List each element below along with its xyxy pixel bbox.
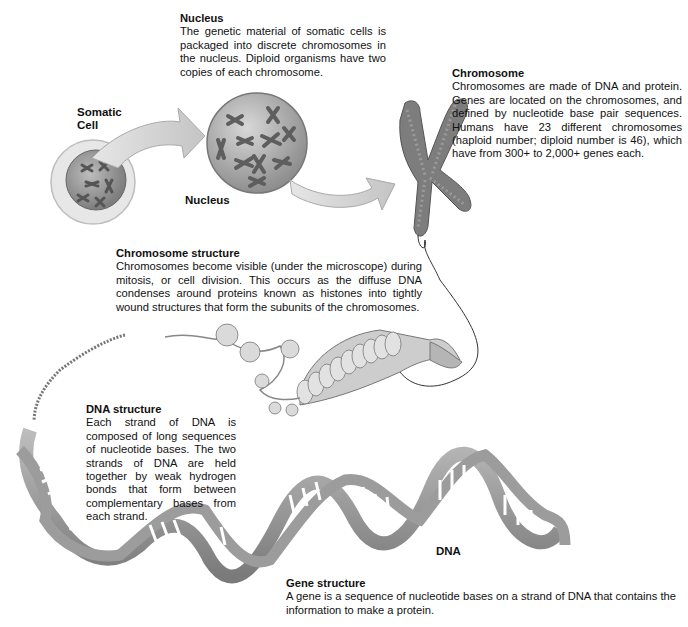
nucleus-graphic: [207, 93, 307, 193]
chromatin-fiber-graphic: [297, 330, 462, 405]
dna-structure-description: DNA structure Each strand of DNA is comp…: [86, 403, 236, 524]
dna-structure-title: DNA structure: [86, 403, 236, 416]
chromosome-structure-description: Chromosome structure Chromosomes become …: [116, 247, 422, 314]
nucleus-label: Nucleus: [185, 194, 230, 207]
nucleus-title: Nucleus: [180, 12, 386, 25]
dna-label: DNA: [436, 545, 461, 558]
nucleus-body: The genetic material of somatic cells is…: [180, 25, 386, 79]
arrow-nucleus-to-chromosome: [290, 178, 395, 210]
somatic-cell-label: Somatic Cell: [77, 106, 122, 132]
chromosome-structure-body: Chromosomes become visible (under the mi…: [116, 260, 422, 314]
dna-structure-body: Each strand of DNA is composed of long s…: [86, 416, 236, 523]
diagram-canvas: Nucleus The genetic material of somatic …: [0, 0, 688, 627]
gene-structure-body: A gene is a sequence of nucleotide bases…: [286, 590, 676, 617]
chromosome-body: Chromosomes are made of DNA and protein.…: [452, 80, 682, 160]
gene-structure-description: Gene structure A gene is a sequence of n…: [286, 577, 676, 617]
chromosome-title: Chromosome: [452, 67, 682, 80]
gene-structure-title: Gene structure: [286, 577, 676, 590]
chromosome-description: Chromosome Chromosomes are made of DNA a…: [452, 67, 682, 161]
chromosome-structure-title: Chromosome structure: [116, 247, 422, 260]
nucleus-description: Nucleus The genetic material of somatic …: [180, 12, 386, 79]
